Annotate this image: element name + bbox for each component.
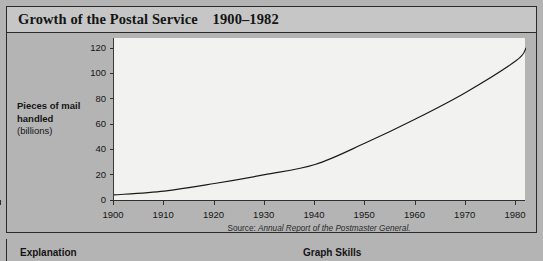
- x-tick-mark-1980: [515, 200, 516, 205]
- source-title: Annual Report of the Postmaster General.: [258, 224, 410, 233]
- figure-title-band: Growth of the Postal Service 1900–1982: [7, 7, 536, 33]
- postal-growth-line-chart: [114, 38, 526, 200]
- bottom-left-rule: [6, 239, 7, 261]
- y-tick-label-80: 80: [78, 94, 106, 104]
- x-tick-label-1970: 1970: [445, 209, 485, 220]
- x-tick-label-1950: 1950: [344, 209, 384, 220]
- x-tick-mark-1950: [364, 200, 365, 205]
- y-tick-label-20: 20: [78, 170, 106, 180]
- x-tick-mark-1960: [415, 200, 416, 205]
- x-tick-mark-1900: [113, 200, 114, 205]
- x-tick-label-1900: 1900: [93, 209, 133, 220]
- y-tick-label-100: 100: [78, 68, 106, 78]
- x-tick-label-1940: 1940: [294, 209, 334, 220]
- mail-volume-curve: [114, 48, 526, 195]
- y-tick-label-120: 120: [78, 43, 106, 53]
- y-tick-label-60: 60: [78, 119, 106, 129]
- x-axis-line: [113, 200, 525, 201]
- chart-plot-area: [113, 38, 525, 200]
- explanation-heading: Explanation: [20, 247, 77, 258]
- x-tick-label-1980: 1980: [495, 209, 535, 220]
- graph-skills-heading: Graph Skills: [303, 247, 361, 258]
- y-tick-label-40: 40: [78, 144, 106, 154]
- x-tick-mark-spacer: [0, 200, 1, 205]
- bottom-section: Explanation Graph Skills: [0, 239, 543, 261]
- page-title: Growth of the Postal Service 1900–1982: [18, 11, 279, 28]
- x-tick-label-1910: 1910: [143, 209, 183, 220]
- x-tick-mark-1920: [214, 200, 215, 205]
- x-tick-mark-1940: [314, 200, 315, 205]
- x-tick-mark-1910: [163, 200, 164, 205]
- x-tick-label-1960: 1960: [395, 209, 435, 220]
- x-tick-label-1930: 1930: [244, 209, 284, 220]
- source-note: Source: Annual Report of the Postmaster …: [113, 224, 525, 233]
- y-tick-label-0: 0: [78, 195, 106, 205]
- source-label: Source:: [228, 224, 256, 233]
- page-root: Growth of the Postal Service 1900–1982 P…: [0, 0, 543, 261]
- x-tick-mark-1930: [264, 200, 265, 205]
- x-tick-label-1920: 1920: [194, 209, 234, 220]
- x-tick-mark-1970: [465, 200, 466, 205]
